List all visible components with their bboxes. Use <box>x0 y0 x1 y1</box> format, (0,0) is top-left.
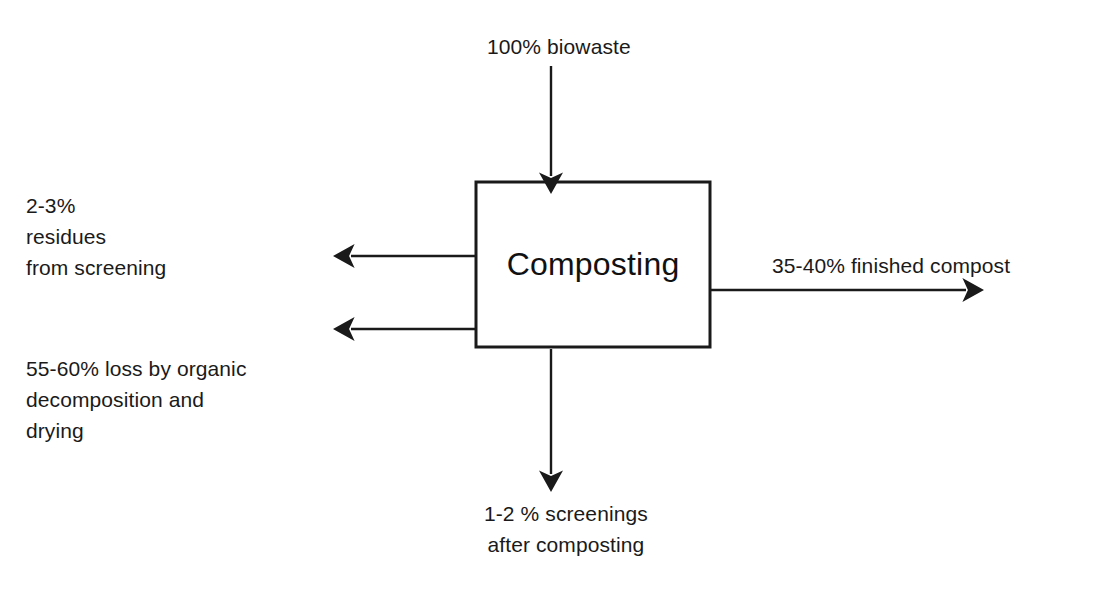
process-box-label: Composting <box>476 182 710 347</box>
flow-label-input-top: 100% biowaste <box>487 31 631 62</box>
flow-label-finished-compost: 35-40% finished compost <box>772 250 1010 281</box>
flow-label-residues-screening: 2-3% residues from screening <box>26 190 166 283</box>
flow-label-screenings-after: 1-2 % screenings after composting <box>484 498 648 560</box>
diagram-canvas: Composting 100% biowaste 2-3% residues f… <box>0 0 1112 599</box>
flow-label-organic-loss: 55-60% loss by organic decomposition and… <box>26 353 247 446</box>
